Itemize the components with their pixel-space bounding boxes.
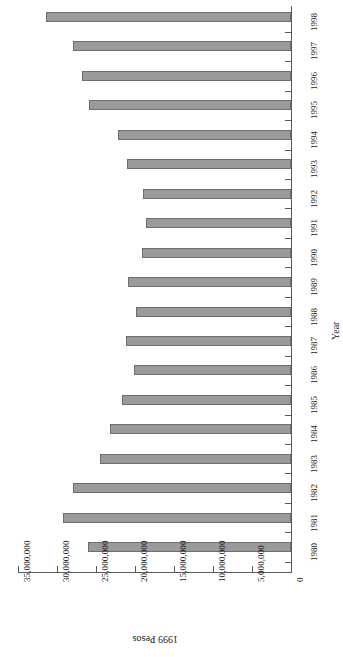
bar-1995 xyxy=(89,100,291,110)
category-label-1985: 1985 xyxy=(309,396,319,414)
value-tick-0 xyxy=(291,566,292,573)
category-label-1998: 1998 xyxy=(309,13,319,31)
bar-1990 xyxy=(142,248,291,258)
plot-area: 1998199719961995199419931992199119901989… xyxy=(0,0,343,657)
category-label-1983: 1983 xyxy=(309,455,319,473)
category-tick-1996 xyxy=(285,91,292,92)
bar-1982 xyxy=(73,483,291,493)
category-tick-1992 xyxy=(285,208,292,209)
bar-1989 xyxy=(128,277,291,287)
value-label-25000000: 25,000,000 xyxy=(100,541,110,583)
bar-1994 xyxy=(118,130,291,140)
bar-chart-figure: 1998199719961995199419931992199119901989… xyxy=(0,0,343,657)
bar-1985 xyxy=(122,395,291,405)
value-label-35000000: 35,000,000 xyxy=(22,541,32,583)
category-tick-1982 xyxy=(285,503,292,504)
category-label-1996: 1996 xyxy=(309,72,319,90)
category-tick-1985 xyxy=(285,415,292,416)
category-label-1995: 1995 xyxy=(309,101,319,119)
category-label-1986: 1986 xyxy=(309,366,319,384)
value-label-15000000: 15,000,000 xyxy=(178,541,188,583)
category-label-1991: 1991 xyxy=(309,219,319,237)
bar-1983 xyxy=(100,454,291,464)
value-tick-5000000 xyxy=(252,566,253,573)
category-tick-1983 xyxy=(285,473,292,474)
bar-1986 xyxy=(134,365,291,375)
category-tick-1997 xyxy=(285,61,292,62)
category-label-1997: 1997 xyxy=(309,42,319,60)
value-label-20000000: 20,000,000 xyxy=(139,541,149,583)
bar-1993 xyxy=(127,159,291,169)
category-label-1990: 1990 xyxy=(309,249,319,267)
value-label-5000000: 5,000,000 xyxy=(256,545,266,582)
category-tick-1989 xyxy=(285,297,292,298)
bar-1996 xyxy=(82,71,291,81)
category-tick-1995 xyxy=(285,120,292,121)
bar-1988 xyxy=(136,307,291,317)
category-label-1987: 1987 xyxy=(309,337,319,355)
category-tick-1994 xyxy=(285,150,292,151)
value-label-10000000: 10,000,000 xyxy=(217,541,227,583)
value-axis-title: 1999 Pesos xyxy=(133,634,178,645)
category-label-1989: 1989 xyxy=(309,278,319,296)
value-tick-25000000 xyxy=(96,566,97,573)
category-label-1994: 1994 xyxy=(309,131,319,149)
bar-1998 xyxy=(46,12,291,22)
category-tick-1988 xyxy=(285,326,292,327)
value-tick-35000000 xyxy=(18,566,19,573)
category-tick-1986 xyxy=(285,385,292,386)
category-label-1988: 1988 xyxy=(309,308,319,326)
category-tick-1998 xyxy=(285,32,292,33)
value-label-0: 0 xyxy=(295,577,305,582)
bar-1997 xyxy=(73,41,291,51)
bar-1984 xyxy=(110,424,291,434)
value-axis-line xyxy=(18,572,292,573)
category-tick-1990 xyxy=(285,267,292,268)
category-tick-1993 xyxy=(285,179,292,180)
category-label-1980: 1980 xyxy=(309,543,319,561)
bar-1992 xyxy=(143,189,291,199)
category-label-1993: 1993 xyxy=(309,160,319,178)
category-tick-1984 xyxy=(285,444,292,445)
bar-1987 xyxy=(126,336,291,346)
category-label-1982: 1982 xyxy=(309,484,319,502)
category-label-1984: 1984 xyxy=(309,425,319,443)
category-axis-title: Year xyxy=(330,322,341,340)
bar-1991 xyxy=(146,218,291,228)
category-tick-1987 xyxy=(285,356,292,357)
value-tick-30000000 xyxy=(57,566,58,573)
value-tick-20000000 xyxy=(135,566,136,573)
category-tick-1991 xyxy=(285,238,292,239)
value-tick-15000000 xyxy=(174,566,175,573)
category-tick-1980 xyxy=(285,562,292,563)
value-label-30000000: 30,000,000 xyxy=(61,541,71,583)
value-tick-10000000 xyxy=(213,566,214,573)
category-tick-1981 xyxy=(285,532,292,533)
bar-1981 xyxy=(63,513,291,523)
category-label-1981: 1981 xyxy=(309,514,319,532)
category-label-1992: 1992 xyxy=(309,190,319,208)
